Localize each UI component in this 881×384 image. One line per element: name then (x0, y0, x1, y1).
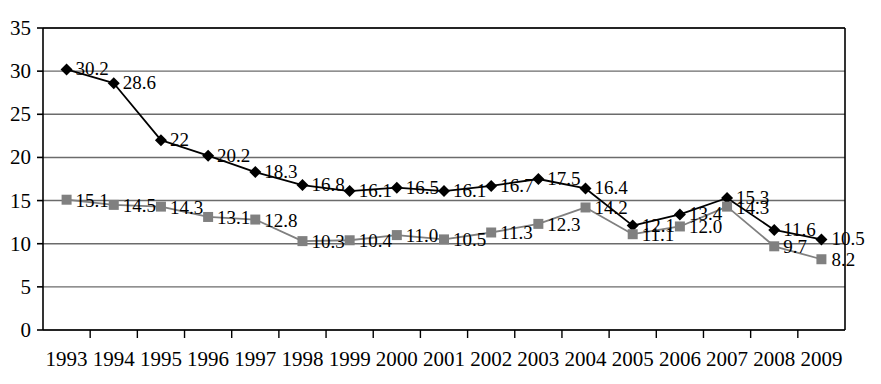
data-point-label: 15.1 (76, 190, 109, 211)
data-point-marker (722, 202, 732, 212)
data-point-marker (486, 227, 496, 237)
x-axis-tick-label: 2003 (517, 347, 559, 371)
data-point-marker (62, 195, 72, 205)
data-point-label: 16.8 (311, 174, 344, 195)
x-axis-tick-label: 2001 (423, 347, 465, 371)
data-point-marker (345, 235, 355, 245)
data-point-marker (250, 215, 260, 225)
x-axis-tick-labels: 1993199419951996199719981999200020012002… (46, 347, 843, 371)
line-chart: 05101520253035 1993199419951996199719981… (0, 0, 881, 384)
x-axis-tick-label: 1994 (93, 347, 136, 371)
data-point-marker (675, 221, 685, 231)
y-axis-tick-label: 15 (10, 189, 31, 213)
y-axis-tick-label: 20 (10, 145, 31, 169)
x-axis-tick-label: 1997 (234, 347, 276, 371)
data-point-label: 11.1 (642, 224, 675, 245)
data-point-marker (156, 202, 166, 212)
data-point-label: 13.1 (217, 207, 250, 228)
data-point-marker (109, 200, 119, 210)
data-point-label: 28.6 (123, 72, 156, 93)
x-axis-tick-label: 2002 (470, 347, 512, 371)
data-point-label: 12.8 (264, 210, 297, 231)
data-point-marker (581, 202, 591, 212)
data-point-label: 16.5 (406, 177, 439, 198)
y-axis-tick-label: 30 (10, 59, 31, 83)
data-point-label: 10.3 (311, 231, 344, 252)
data-point-label: 12.0 (689, 216, 722, 237)
data-point-marker (769, 241, 779, 251)
x-axis-tick-label: 2009 (800, 347, 842, 371)
data-point-label: 16.7 (500, 175, 533, 196)
data-point-label: 10.4 (359, 230, 393, 251)
y-axis-tick-label: 0 (21, 318, 32, 342)
data-point-marker (628, 229, 638, 239)
data-point-label: 22 (170, 129, 189, 150)
data-point-label: 9.7 (783, 236, 807, 257)
y-axis-tick-label: 25 (10, 102, 31, 126)
x-axis-tick-label: 2000 (376, 347, 418, 371)
x-axis-tick-label: 1993 (46, 347, 88, 371)
data-point-marker (392, 230, 402, 240)
data-point-label: 10.5 (831, 228, 864, 249)
data-point-marker (816, 254, 826, 264)
data-point-label: 14.2 (595, 197, 628, 218)
x-axis-tick-label: 2004 (565, 347, 608, 371)
chart-canvas: 05101520253035 1993199419951996199719981… (0, 0, 881, 384)
data-point-label: 14.5 (123, 195, 156, 216)
data-point-label: 11.3 (500, 222, 533, 243)
x-axis-tick-label: 1996 (187, 347, 229, 371)
data-point-label: 16.4 (595, 177, 629, 198)
y-axis-tick-label: 10 (10, 232, 31, 256)
y-axis-tick-label: 35 (10, 16, 31, 40)
x-axis-tick-label: 2007 (706, 347, 748, 371)
data-point-label: 14.3 (736, 197, 769, 218)
data-point-label: 18.3 (264, 161, 297, 182)
data-point-label: 10.5 (453, 229, 486, 250)
data-point-marker (203, 212, 213, 222)
x-axis-tick-label: 1995 (140, 347, 182, 371)
data-point-label: 11.0 (406, 225, 439, 246)
data-point-label: 8.2 (831, 249, 855, 270)
data-point-label: 20.2 (217, 145, 250, 166)
data-point-label: 14.3 (170, 197, 203, 218)
y-axis-tick-label: 5 (21, 275, 32, 299)
data-point-label: 12.3 (547, 214, 580, 235)
data-point-marker (439, 234, 449, 244)
data-point-label: 16.1 (359, 180, 392, 201)
data-point-marker (533, 219, 543, 229)
data-point-label: 30.2 (76, 58, 109, 79)
data-point-marker (297, 236, 307, 246)
x-axis-tick-label: 2008 (753, 347, 795, 371)
data-point-label: 17.5 (547, 168, 580, 189)
x-axis-tick-label: 1998 (281, 347, 323, 371)
x-axis-tick-label: 1999 (329, 347, 371, 371)
x-axis-tick-label: 2005 (612, 347, 654, 371)
x-axis-tick-label: 2006 (659, 347, 701, 371)
data-point-label: 16.1 (453, 180, 486, 201)
